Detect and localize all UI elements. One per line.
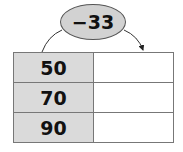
output-cell[interactable]: [94, 53, 174, 83]
input-cell: 70: [14, 83, 94, 113]
input-cell: 50: [14, 53, 94, 83]
input-output-table: 50 70 90: [13, 52, 174, 143]
table-row: 70: [14, 83, 174, 113]
input-cell: 90: [14, 113, 94, 143]
table-row: 90: [14, 113, 174, 143]
output-cell[interactable]: [94, 83, 174, 113]
table-row: 50: [14, 53, 174, 83]
output-cell[interactable]: [94, 113, 174, 143]
operation-label: −33: [60, 4, 126, 40]
